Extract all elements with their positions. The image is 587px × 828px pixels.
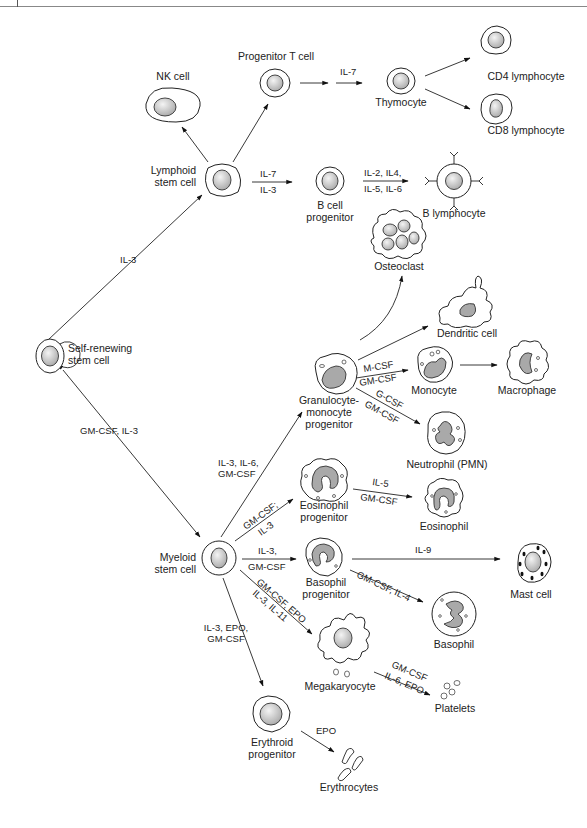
megakaryocyte-icon	[318, 613, 370, 677]
myeloid-stem-cell-icon	[202, 541, 236, 575]
cytokine-b-blymph-bottom: IL-5, IL-6	[364, 183, 402, 194]
neutrophil-icon	[428, 412, 466, 454]
eosinophil-progenitor-icon	[301, 459, 348, 502]
label-erythroid: Erythroidprogenitor	[248, 736, 296, 760]
arrow-lymphoid-to-nk	[182, 127, 208, 162]
cytokine-basophil: GM-CSF, IL-4	[355, 569, 412, 604]
thymocyte-icon	[387, 68, 415, 94]
granulocyte-monocyte-progenitor-icon	[315, 353, 357, 394]
self-renewing-stem-cell-icon	[36, 339, 64, 373]
label-b-lymphocyte: B lymphocyte	[422, 207, 485, 219]
cell-labels: Self-renewingstem cell Lymphoidstem cell…	[68, 50, 565, 793]
label-erythrocytes: Erythrocytes	[320, 781, 378, 793]
cytokine-to-lymphoid: IL-3	[120, 254, 136, 265]
b-lymphocyte-icon	[425, 152, 483, 210]
label-osteoclast: Osteoclast	[374, 260, 424, 272]
cytokine-eos-bottom: GM-CSF	[360, 491, 399, 507]
label-dendritic: Dendritic cell	[437, 327, 497, 339]
label-eos-progenitor: Eosinophilprogenitor	[300, 499, 348, 523]
cytokine-lymph-b-top: IL-7	[260, 168, 276, 179]
cytokine-eos-top: IL-5	[372, 476, 390, 489]
arrow-stem-to-myeloid	[63, 370, 200, 537]
label-cd8: CD8 lymphocyte	[487, 124, 564, 136]
arrow-thymocyte-to-cd4	[425, 58, 470, 76]
cytokine-to-myeloid: GM-CSF, IL-3	[80, 425, 138, 436]
cytokine-basoprog-top: IL-3,	[258, 545, 277, 556]
label-cd4: CD4 lymphocyte	[487, 70, 564, 82]
eosinophil-icon	[425, 478, 463, 517]
label-monocyte: Monocyte	[411, 384, 457, 396]
label-eosinophil: Eosinophil	[420, 520, 468, 532]
arrow-thymocyte-to-cd8	[425, 89, 470, 109]
erythrocytes-icon	[338, 748, 363, 780]
basophil-icon	[432, 592, 476, 636]
basophil-progenitor-icon	[306, 538, 342, 576]
cd8-lymphocyte-icon	[481, 94, 512, 124]
lymphoid-stem-cell-icon	[205, 164, 240, 196]
cytokine-to-gm-progenitor: IL-3, IL-6,GM-CSF	[218, 457, 259, 479]
label-self-renewing: Self-renewingstem cell	[68, 342, 132, 366]
mast-cell-icon	[518, 544, 551, 583]
osteoclast-icon	[371, 209, 426, 258]
label-thymocyte: Thymocyte	[375, 96, 427, 108]
cytokine-progT-thymo: IL-7	[340, 66, 356, 77]
arrow-gm-to-dendritic	[358, 326, 428, 360]
label-progenitor-t: Progenitor T cell	[238, 50, 314, 62]
arrow-lymphoid-to-progT	[233, 104, 268, 162]
arrow-stem-to-lymphoid	[48, 195, 202, 340]
label-basophil: Basophil	[434, 638, 474, 650]
label-macrophage: Macrophage	[498, 384, 557, 396]
label-myeloid: Myeloidstem cell	[155, 551, 197, 575]
arrow-gm-to-osteoclast	[360, 276, 402, 340]
macrophage-icon	[507, 341, 549, 384]
cytokine-to-erythroid: IL-3, EPO,GM-CSF	[204, 622, 248, 644]
label-mast: Mast cell	[510, 588, 551, 600]
cytokine-mast: IL-9	[415, 544, 431, 555]
dendritic-cell-icon	[439, 276, 492, 328]
progenitor-t-cell-icon	[260, 69, 290, 97]
cytokine-erythrocytes: EPO	[316, 725, 336, 736]
hematopoiesis-diagram: Self-renewingstem cell Lymphoidstem cell…	[0, 0, 587, 828]
label-baso-progenitor: Basophilprogenitor	[302, 576, 350, 600]
cytokine-lymph-b-bottom: IL-3	[260, 184, 276, 195]
label-nk: NK cell	[156, 70, 189, 82]
cd4-lymphocyte-icon	[481, 26, 511, 54]
label-neutrophil: Neutrophil (PMN)	[406, 458, 487, 470]
erythroid-progenitor-icon	[253, 696, 290, 732]
monocyte-icon	[418, 347, 453, 383]
nk-cell-icon	[146, 88, 200, 122]
label-b-progenitor: B cellprogenitor	[306, 199, 354, 223]
label-lymphoid: Lymphoidstem cell	[151, 164, 196, 188]
cytokine-b-blymph-top: IL-2, IL4,	[364, 167, 402, 178]
label-platelets: Platelets	[435, 702, 475, 714]
label-megakaryocyte: Megakaryocyte	[304, 680, 375, 692]
b-cell-progenitor-icon	[316, 167, 344, 195]
arrows	[48, 58, 500, 752]
platelets-icon	[441, 681, 460, 700]
cytokine-basoprog-bottom: GM-CSF	[248, 561, 286, 572]
label-gm-progenitor: Granulocyte-monocyteprogenitor	[299, 394, 360, 430]
